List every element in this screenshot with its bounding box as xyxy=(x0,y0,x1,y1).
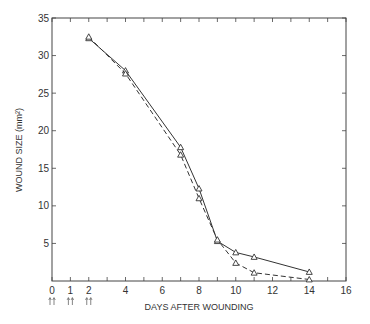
x-tick-label: 0 xyxy=(49,285,55,296)
x-tick-label: 12 xyxy=(267,285,279,296)
y-tick-label: 15 xyxy=(38,163,50,174)
y-tick-label: 5 xyxy=(43,238,49,249)
y-tick-label: 20 xyxy=(38,125,50,136)
x-tick-label: 10 xyxy=(230,285,242,296)
x-tick-label: 4 xyxy=(123,285,129,296)
triangle-marker-icon xyxy=(86,34,92,39)
y-tick-label: 10 xyxy=(38,200,50,211)
dashed-series-line xyxy=(89,37,310,280)
x-tick-label: 8 xyxy=(196,285,202,296)
x-tick-label: 6 xyxy=(159,285,165,296)
triangle-marker-icon xyxy=(233,260,239,265)
x-tick-label: 1 xyxy=(68,285,74,296)
y-tick-label: 35 xyxy=(38,13,50,24)
plot-frame xyxy=(52,18,346,281)
triangle-marker-icon xyxy=(196,186,202,191)
triangle-marker-icon xyxy=(196,195,202,200)
x-tick-label: 2 xyxy=(86,285,92,296)
triangle-marker-icon xyxy=(214,237,220,242)
x-axis-label: DAYS AFTER WOUNDING xyxy=(145,302,254,312)
y-axis-label: WOUND SIZE (mm²) xyxy=(14,108,24,192)
plot-area xyxy=(86,34,313,282)
y-tick-label: 25 xyxy=(38,88,50,99)
y-tick-label: 30 xyxy=(38,50,50,61)
axes: 012468101214165101520253035 xyxy=(38,13,352,306)
triangle-marker-icon xyxy=(233,249,239,254)
x-tick-label: 14 xyxy=(304,285,316,296)
wound-size-chart: 012468101214165101520253035 DAYS AFTER W… xyxy=(0,0,370,324)
triangle-marker-icon xyxy=(251,270,257,275)
x-tick-label: 16 xyxy=(340,285,352,296)
